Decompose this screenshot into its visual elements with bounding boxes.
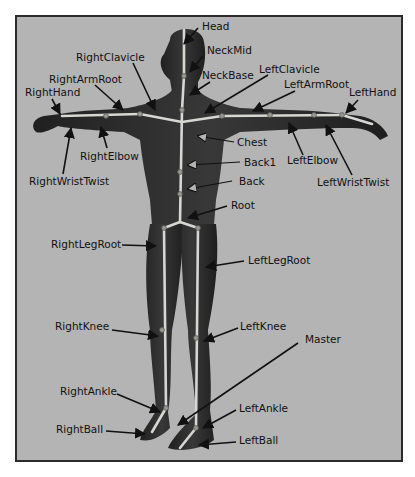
label-left-elbow: LeftElbow	[287, 154, 338, 166]
label-left-hand: LeftHand	[349, 86, 396, 98]
label-left-leg-root: LeftLegRoot	[248, 254, 310, 266]
label-right-elbow: RightElbow	[80, 150, 139, 162]
label-left-clavicle: LeftClavicle	[259, 63, 320, 75]
label-right-arm-root: RightArmRoot	[49, 73, 122, 85]
label-right-ball: RightBall	[56, 423, 103, 435]
label-right-hand: RightHand	[25, 86, 80, 98]
label-right-wrist-twist: RightWristTwist	[29, 175, 109, 187]
label-neck-mid: NeckMid	[207, 44, 252, 56]
label-root: Root	[231, 199, 255, 211]
label-master: Master	[305, 333, 342, 345]
label-back: Back	[239, 175, 265, 187]
label-chest: Chest	[237, 136, 267, 148]
label-left-arm-root: LeftArmRoot	[284, 78, 349, 90]
label-head: Head	[202, 20, 229, 32]
label-neck-base: NeckBase	[202, 69, 254, 81]
right-leg-root-arrow	[122, 245, 156, 246]
label-back1: Back1	[244, 156, 276, 168]
label-right-leg-root: RightLegRoot	[51, 238, 121, 250]
label-right-ankle: RightAnkle	[60, 385, 117, 397]
rig-diagram: HeadNeckMidNeckBaseRightClavicleLeftClav…	[0, 0, 415, 477]
label-left-wrist-twist: LeftWristTwist	[317, 176, 389, 188]
label-left-knee: LeftKnee	[240, 320, 286, 332]
label-left-ankle: LeftAnkle	[239, 402, 288, 414]
label-right-clavicle: RightClavicle	[76, 51, 145, 63]
label-right-knee: RightKnee	[55, 320, 109, 332]
label-left-ball: LeftBall	[239, 434, 278, 446]
